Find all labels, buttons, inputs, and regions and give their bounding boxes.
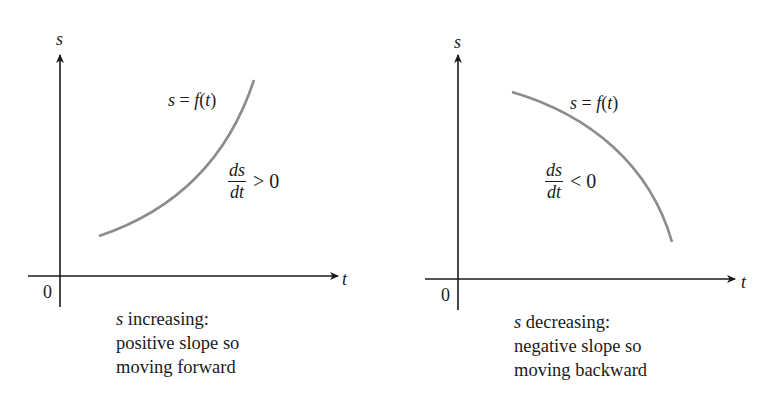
- caption-line-1: s decreasing:: [514, 310, 647, 334]
- caption-line1-text: decreasing:: [521, 312, 610, 332]
- derivative-relation: > 0: [253, 170, 279, 193]
- curve-label-paren: ): [210, 90, 216, 110]
- left-x-axis-label: t: [342, 270, 347, 288]
- right-curve-label: s = f(t): [570, 94, 618, 112]
- right-y-axis-label: s: [454, 33, 461, 51]
- left-caption: s increasing: positive slope so moving f…: [116, 307, 239, 379]
- right-x-axis-label: t: [741, 273, 746, 291]
- derivative-fraction: ds dt: [228, 161, 246, 202]
- right-caption: s decreasing: negative slope so moving b…: [514, 310, 647, 382]
- caption-line1-text: increasing:: [123, 309, 209, 329]
- curve-label-eq: =: [577, 93, 596, 113]
- right-origin-label: 0: [441, 286, 450, 304]
- curve-label-eq: =: [175, 90, 194, 110]
- derivative-numerator: ds: [228, 161, 246, 182]
- left-y-axis-label: s: [56, 30, 63, 48]
- left-derivative-label: ds dt > 0: [228, 161, 279, 202]
- derivative-numerator: ds: [545, 161, 563, 182]
- derivative-denominator: dt: [547, 182, 561, 202]
- left-origin-label: 0: [43, 283, 52, 301]
- curve-label-paren: ): [612, 93, 618, 113]
- caption-line-3: moving forward: [116, 355, 239, 379]
- right-derivative-label: ds dt < 0: [545, 161, 596, 202]
- derivative-fraction: ds dt: [545, 161, 563, 202]
- curve-label-var: s: [570, 93, 577, 113]
- caption-line-2: positive slope so: [116, 331, 239, 355]
- caption-line-1: s increasing:: [116, 307, 239, 331]
- curve-label-var: s: [168, 90, 175, 110]
- left-curve-label: s = f(t): [168, 91, 216, 109]
- derivative-denominator: dt: [230, 182, 244, 202]
- derivative-relation: < 0: [570, 170, 596, 193]
- caption-line-3: moving backward: [514, 358, 647, 382]
- caption-line-2: negative slope so: [514, 334, 647, 358]
